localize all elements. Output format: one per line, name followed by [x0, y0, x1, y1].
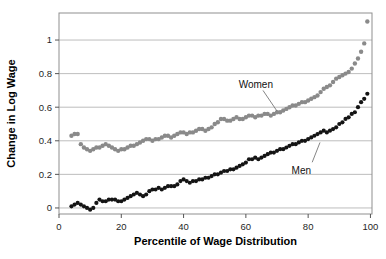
women-data-point	[79, 142, 83, 146]
men-data-point	[175, 182, 179, 186]
chart-canvas: 02040608010000.20.40.60.81 WomenMen Perc…	[0, 0, 386, 259]
y-tick-label: 0.8	[39, 68, 52, 79]
men-data-point	[356, 105, 360, 109]
men-data-point	[144, 192, 148, 196]
women-data-point	[318, 90, 322, 94]
women-data-point	[75, 132, 79, 136]
men-data-point	[362, 97, 366, 101]
women-data-point	[331, 80, 335, 84]
x-tick-label: 60	[241, 221, 252, 232]
women-series-label: Women	[239, 79, 273, 90]
women-data-point	[209, 125, 213, 129]
y-axis-title: Change in Log Wage	[5, 59, 17, 167]
men-data-point	[353, 110, 357, 114]
x-tick-label: 20	[116, 221, 127, 232]
x-tick-label: 40	[178, 221, 189, 232]
men-data-point	[94, 201, 98, 205]
y-tick-label: 0.4	[39, 135, 52, 146]
men-data-point	[340, 120, 344, 124]
x-tick-label: 100	[363, 221, 379, 232]
women-data-point	[328, 83, 332, 87]
men-data-point	[359, 100, 363, 104]
y-tick-label: 0.6	[39, 102, 52, 113]
women-data-point	[315, 93, 319, 97]
x-tick-label: 80	[303, 221, 314, 232]
y-tick-label: 0.2	[39, 169, 52, 180]
wage-change-by-percentile-chart: 02040608010000.20.40.60.81 WomenMen Perc…	[0, 0, 386, 259]
women-leader-line	[263, 90, 277, 111]
women-data-point	[359, 50, 363, 54]
men-data-point	[91, 206, 95, 210]
men-series	[69, 92, 369, 212]
women-data-point	[362, 41, 366, 45]
men-data-point	[334, 125, 338, 129]
x-axis-title: Percentile of Wage Distribution	[134, 235, 297, 247]
women-data-point	[216, 120, 220, 124]
y-tick-label: 0	[47, 202, 52, 213]
women-data-point	[353, 61, 357, 65]
men-series-label: Men	[292, 165, 311, 176]
women-data-point	[350, 66, 354, 70]
x-tick-label: 0	[56, 221, 61, 232]
women-data-point	[365, 19, 369, 23]
men-data-point	[365, 92, 369, 96]
men-leader-line	[312, 142, 320, 162]
men-data-point	[244, 161, 248, 165]
women-series	[69, 19, 369, 153]
plot-border	[59, 13, 372, 214]
women-data-point	[356, 56, 360, 60]
women-data-point	[346, 70, 350, 74]
y-tick-label: 1	[47, 34, 52, 45]
data-series	[69, 19, 369, 211]
plot-frame	[59, 13, 372, 214]
men-data-point	[347, 115, 351, 119]
series-annotations: WomenMen	[239, 79, 320, 176]
